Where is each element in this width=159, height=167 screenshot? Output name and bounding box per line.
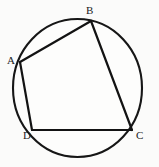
vertex-label-a: A [7, 55, 15, 66]
vertex-label-c: C [136, 130, 143, 141]
geometry-figure: A B C D [0, 0, 159, 167]
figure-canvas [0, 0, 159, 167]
vertex-label-b: B [86, 5, 93, 16]
vertex-label-d: D [23, 130, 31, 141]
circumscribed-circle [13, 19, 142, 157]
